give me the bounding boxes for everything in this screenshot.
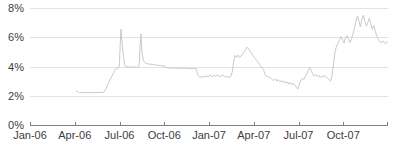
chart-canvas: 0%2%4%6%8% Jan-06Apr-06Jul-06Oct-06Jan-0… [0, 0, 395, 154]
x-axis-labels-group: Jan-06Apr-06Jul-06Oct-06Jan-07Apr-07Jul-… [13, 129, 360, 141]
y-axis-tick-label: 4% [8, 61, 24, 73]
y-axis-tick-label: 6% [8, 31, 24, 43]
gridlines-group [30, 9, 388, 97]
x-axis-tick-label: Oct-07 [327, 129, 360, 141]
data-series-group [76, 15, 387, 92]
x-axis-tick-label: Apr-07 [237, 129, 270, 141]
x-axis-group [30, 122, 388, 126]
x-axis-tick-label: Jan-06 [13, 129, 47, 141]
line-chart: 0%2%4%6%8% Jan-06Apr-06Jul-06Oct-06Jan-0… [0, 0, 395, 154]
y-axis-tick-label: 2% [8, 90, 24, 102]
x-axis-tick-label: Jul-06 [105, 129, 135, 141]
data-line-rate [76, 15, 387, 92]
y-axis-labels-group: 0%2%4%6%8% [8, 2, 24, 131]
x-axis-tick-label: Jul-07 [284, 129, 314, 141]
x-axis-tick-label: Apr-06 [58, 129, 91, 141]
x-axis-tick-label: Jan-07 [192, 129, 226, 141]
y-axis-tick-label: 8% [8, 2, 24, 14]
x-axis-tick-label: Oct-06 [148, 129, 181, 141]
